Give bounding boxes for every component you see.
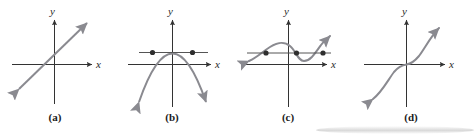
panel-d-graph: x y bbox=[364, 5, 454, 107]
figure-panel-group: x y x y x y bbox=[0, 0, 474, 137]
panel-b-graph: x y bbox=[128, 5, 220, 107]
panel-d-x-label: x bbox=[448, 58, 454, 70]
panel-b-y-label: y bbox=[167, 5, 173, 17]
panel-c-intersection-dot bbox=[320, 50, 325, 55]
panel-a-caption: (a) bbox=[35, 111, 75, 123]
panel-b-intersection-dot bbox=[190, 50, 195, 55]
panel-d-y-label: y bbox=[401, 5, 407, 17]
panel-d-caption: (d) bbox=[391, 111, 431, 123]
panel-b-intersection-dot bbox=[150, 50, 155, 55]
panel-a-y-label: y bbox=[49, 5, 55, 17]
panel-c-y-label: y bbox=[283, 5, 289, 17]
panel-a-curve-line bbox=[19, 23, 87, 89]
panel-c-cubic-curve bbox=[249, 36, 330, 61]
panel-c-x-label: x bbox=[330, 58, 336, 70]
panel-b-x-label: x bbox=[214, 58, 220, 70]
panel-c-graph: x y bbox=[245, 5, 336, 107]
panel-c-intersection-dot bbox=[263, 50, 268, 55]
page-edge-shadow bbox=[316, 126, 474, 134]
panel-c-caption: (c) bbox=[268, 111, 308, 123]
panel-b-caption: (b) bbox=[152, 111, 192, 123]
panel-a-graph: x y bbox=[12, 5, 101, 104]
panel-a-x-label: x bbox=[95, 58, 101, 70]
panel-c-intersection-dot bbox=[294, 50, 299, 55]
